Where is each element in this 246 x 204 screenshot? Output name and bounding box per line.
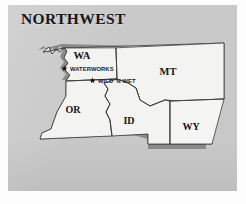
state-label-wy: WY <box>182 121 200 132</box>
site-label-wild-n-wet: WILD 'N WET <box>98 78 136 84</box>
state-label-wa: WA <box>74 50 91 61</box>
northwest-map: WA MT OR ID WY WATERWORKS WILD 'N WET <box>0 0 246 204</box>
site-marker-waterworks: WATERWORKS <box>62 66 114 72</box>
state-label-id: ID <box>123 115 134 126</box>
site-label-waterworks: WATERWORKS <box>70 66 114 72</box>
map-figure: NORTHWEST <box>0 0 246 204</box>
state-label-or: OR <box>66 104 82 115</box>
state-label-mt: MT <box>160 66 177 77</box>
page-title: NORTHWEST <box>21 10 126 28</box>
